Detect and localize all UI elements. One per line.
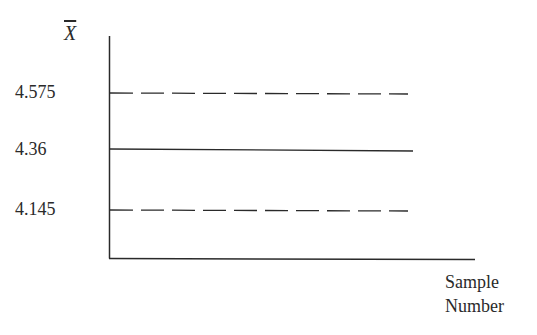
- control-chart: X 4.575 4.36 4.145 Sample Number: [0, 0, 537, 335]
- lcl-line: [110, 210, 408, 211]
- ucl-line: [110, 93, 408, 94]
- x-axis-label: Sample Number: [445, 270, 504, 318]
- x-axis-label-line2: Number: [445, 294, 504, 318]
- x-axis-label-line1: Sample: [445, 270, 504, 294]
- center-line: [109, 149, 413, 151]
- x-axis: [109, 259, 475, 260]
